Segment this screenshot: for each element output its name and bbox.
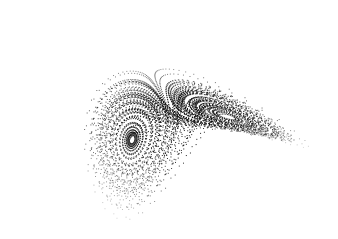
attractor-figure xyxy=(0,0,338,239)
lorenz-attractor-canvas xyxy=(0,0,338,239)
